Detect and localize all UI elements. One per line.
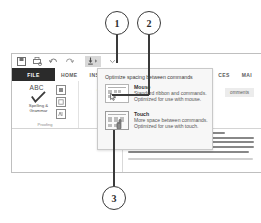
save-icon[interactable] [17, 57, 26, 66]
thesaurus-icon[interactable] [56, 97, 66, 107]
print-preview-icon[interactable] [33, 57, 42, 66]
screenshot-root: 1 2 3 [0, 0, 261, 223]
callout-3: 3 [102, 186, 126, 210]
callout-1: 1 [105, 11, 129, 35]
spelling-check-icon: ABC [28, 84, 50, 102]
tab-home[interactable]: HOME [55, 68, 84, 81]
dropdown-title: Optimize spacing between commands [98, 69, 212, 83]
mouse-option-desc-2: Optimized for use with mouse. [134, 96, 206, 102]
tab-mailings-label: MAI [242, 72, 252, 78]
touch-mouse-mode-icon[interactable] [85, 56, 101, 67]
ribbon-group-proofing: ABC Spelling &Grammar [12, 81, 79, 128]
dropdown-option-touch[interactable]: Touch More space between commands. Optim… [98, 110, 212, 132]
callout-1-leader [116, 32, 118, 63]
comments-button[interactable]: omments [225, 88, 254, 97]
tab-file-label: FILE [27, 72, 39, 78]
undo-icon[interactable] [49, 57, 58, 66]
touch-option-desc-2: Optimized for use with touch. [134, 123, 206, 129]
touch-option-text: Touch More space between commands. Optim… [134, 111, 206, 129]
tab-mailings[interactable]: MAI [236, 68, 261, 81]
word-count-icon[interactable] [56, 109, 66, 119]
touch-hand-icon [114, 119, 123, 129]
tab-file[interactable]: FILE [12, 68, 55, 81]
document-text-line [128, 158, 253, 160]
tab-references-label: CES [218, 72, 229, 78]
tab-home-label: HOME [61, 72, 78, 78]
callout-3-label: 3 [112, 193, 117, 204]
proofing-small-buttons [56, 83, 66, 119]
callout-2-leader-horizontal [112, 94, 149, 96]
quick-access-toolbar [12, 54, 261, 68]
callout-3-leader [113, 130, 115, 186]
proofing-group-content: ABC Spelling &Grammar [25, 83, 66, 122]
callout-2-label: 2 [147, 18, 152, 29]
redo-icon[interactable] [65, 57, 74, 66]
define-icon[interactable] [56, 85, 66, 95]
callout-2: 2 [137, 11, 161, 35]
mouse-option-text: Mouse Standard ribbon and commands. Opti… [134, 84, 206, 102]
tab-references[interactable]: CES [212, 68, 235, 81]
proofing-group-label: Proofing [38, 122, 53, 128]
callout-1-label: 1 [115, 18, 120, 29]
comments-button-label: omments [230, 90, 249, 95]
callout-2-leader [148, 32, 150, 95]
touch-preview-thumbnail [105, 111, 129, 130]
document-text-line [128, 151, 249, 153]
checkmark-icon [31, 89, 46, 107]
spelling-grammar-button[interactable]: ABC Spelling &Grammar [25, 83, 53, 113]
